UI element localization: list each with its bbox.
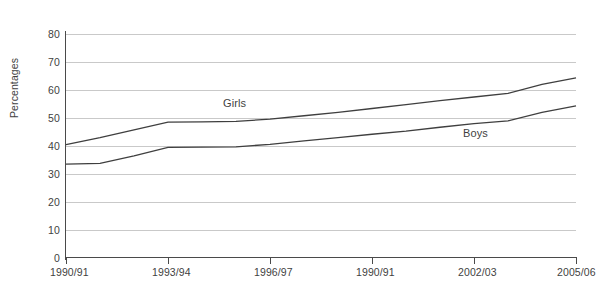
x-tick-mark-4 xyxy=(474,258,475,264)
line-chart: Percentages 80 70 60 50 40 30 20 10 0 19… xyxy=(0,0,611,306)
series-line-girls xyxy=(66,78,576,145)
x-tick-mark-5 xyxy=(576,258,577,264)
series-label-girls: Girls xyxy=(223,97,246,109)
x-tick-mark-1 xyxy=(168,258,169,264)
series-lines xyxy=(0,0,611,306)
x-tick-mark-0 xyxy=(66,258,67,264)
x-tick-mark-2 xyxy=(270,258,271,264)
series-label-boys: Boys xyxy=(463,127,488,139)
x-tick-mark-3 xyxy=(372,258,373,264)
x-tick-label-5: 2005/06 xyxy=(557,266,596,278)
x-tick-label-1: 1993/94 xyxy=(152,266,191,278)
x-tick-label-2: 1996/97 xyxy=(254,266,293,278)
x-tick-label-4: 2002/03 xyxy=(458,266,497,278)
x-tick-label-3: 1990/91 xyxy=(356,266,395,278)
x-tick-label-0: 1990/91 xyxy=(50,266,89,278)
